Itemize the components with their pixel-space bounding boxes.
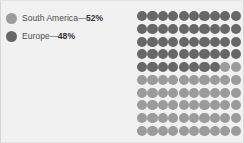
- waffle-dot: [168, 100, 178, 110]
- waffle-dot: [137, 62, 147, 72]
- legend-separator-south-america: —: [78, 13, 86, 23]
- waffle-dot: [189, 75, 199, 85]
- waffle-dot: [231, 62, 241, 72]
- waffle-dot: [158, 62, 168, 72]
- waffle-dot: [220, 49, 230, 59]
- waffle-dot: [147, 37, 157, 47]
- waffle-dot: [179, 75, 189, 85]
- waffle-dot-grid: [137, 11, 241, 139]
- waffle-dot: [158, 11, 168, 21]
- waffle-dot: [179, 100, 189, 110]
- waffle-dot: [179, 113, 189, 123]
- legend: South America—52% Europe—48%: [6, 10, 132, 46]
- waffle-dot: [168, 24, 178, 34]
- waffle-dot: [231, 100, 241, 110]
- waffle-dot: [137, 100, 147, 110]
- waffle-dot: [147, 62, 157, 72]
- waffle-dot: [199, 37, 209, 47]
- waffle-dot: [231, 75, 241, 85]
- waffle-dot: [168, 126, 178, 136]
- waffle-dot: [220, 11, 230, 21]
- waffle-dot: [210, 62, 220, 72]
- waffle-dot: [158, 126, 168, 136]
- waffle-dot: [158, 37, 168, 47]
- waffle-dot: [168, 37, 178, 47]
- waffle-dot: [210, 75, 220, 85]
- waffle-dot: [137, 11, 147, 21]
- legend-label-group: South America—52%: [22, 13, 103, 24]
- waffle-dot: [137, 113, 147, 123]
- legend-swatch-circle-icon: [6, 13, 17, 24]
- waffle-dot: [147, 75, 157, 85]
- waffle-dot: [158, 24, 168, 34]
- waffle-dot: [137, 88, 147, 98]
- waffle-dot: [137, 126, 147, 136]
- waffle-dot: [199, 11, 209, 21]
- waffle-dot: [231, 49, 241, 59]
- waffle-dot: [179, 11, 189, 21]
- waffle-dot: [189, 37, 199, 47]
- waffle-dot: [168, 113, 178, 123]
- waffle-dot: [179, 49, 189, 59]
- waffle-dot: [210, 113, 220, 123]
- waffle-dot: [189, 24, 199, 34]
- waffle-dot: [189, 49, 199, 59]
- legend-item-europe: Europe—48%: [6, 28, 132, 45]
- waffle-dot: [199, 62, 209, 72]
- waffle-dot: [189, 126, 199, 136]
- waffle-dot: [199, 88, 209, 98]
- waffle-dot: [220, 126, 230, 136]
- waffle-dot: [168, 88, 178, 98]
- legend-swatch-circle-icon: [6, 31, 17, 42]
- waffle-dot: [137, 24, 147, 34]
- waffle-dot: [220, 113, 230, 123]
- waffle-dot: [220, 100, 230, 110]
- waffle-dot: [179, 88, 189, 98]
- waffle-dot: [168, 49, 178, 59]
- waffle-dot: [168, 62, 178, 72]
- waffle-dot: [199, 100, 209, 110]
- waffle-dot: [231, 88, 241, 98]
- waffle-dot: [210, 100, 220, 110]
- legend-percent-south-america: 52%: [86, 13, 103, 23]
- legend-label-europe: Europe: [22, 31, 50, 41]
- waffle-dot: [210, 37, 220, 47]
- waffle-dot: [179, 126, 189, 136]
- waffle-dot: [168, 11, 178, 21]
- waffle-dot: [210, 88, 220, 98]
- legend-label-group: Europe—48%: [22, 31, 75, 42]
- waffle-dot: [189, 88, 199, 98]
- waffle-dot: [199, 126, 209, 136]
- waffle-dot: [147, 24, 157, 34]
- waffle-dot: [179, 62, 189, 72]
- waffle-dot: [210, 11, 220, 21]
- waffle-dot: [210, 49, 220, 59]
- waffle-dot: [189, 11, 199, 21]
- legend-separator-europe: —: [50, 31, 58, 41]
- waffle-dot: [220, 75, 230, 85]
- waffle-dot: [147, 100, 157, 110]
- waffle-dot: [231, 113, 241, 123]
- waffle-dot: [137, 75, 147, 85]
- waffle-dot: [199, 113, 209, 123]
- waffle-dot: [199, 75, 209, 85]
- legend-label-south-america: South America: [22, 13, 78, 23]
- waffle-dot: [147, 88, 157, 98]
- waffle-dot: [231, 126, 241, 136]
- waffle-dot: [147, 126, 157, 136]
- waffle-dot: [220, 37, 230, 47]
- waffle-dot: [158, 75, 168, 85]
- waffle-dot: [220, 62, 230, 72]
- waffle-dot: [158, 49, 168, 59]
- waffle-dot: [158, 88, 168, 98]
- waffle-dot: [179, 37, 189, 47]
- waffle-dot: [179, 24, 189, 34]
- waffle-dot: [137, 37, 147, 47]
- waffle-dot: [220, 88, 230, 98]
- waffle-dot: [189, 113, 199, 123]
- waffle-dot: [231, 37, 241, 47]
- waffle-dot: [147, 49, 157, 59]
- waffle-dot: [158, 113, 168, 123]
- waffle-dot: [168, 75, 178, 85]
- waffle-dot: [147, 113, 157, 123]
